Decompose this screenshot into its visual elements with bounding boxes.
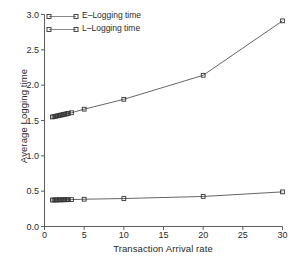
legend-swatch-line-marker-icon: [46, 11, 80, 22]
series-line: [52, 192, 282, 200]
legend-label: L–Logging time: [82, 23, 140, 34]
series-l-logging-time: [51, 190, 285, 202]
legend-item-l-logging-time: L–Logging time: [46, 24, 164, 35]
data-series-layer: [51, 19, 285, 202]
legend-label: E–Logging time: [82, 10, 141, 21]
legend-item-e-logging-time: E–Logging time: [46, 11, 164, 22]
axis-lines: [45, 15, 283, 227]
legend-swatch-line-marker-icon: [46, 24, 80, 35]
chart-figure: Average Logging time 0.00.51.01.52.02.53…: [0, 0, 298, 264]
chart-legend: E–Logging time L–Logging time: [46, 11, 164, 37]
plot-area: [0, 0, 298, 264]
